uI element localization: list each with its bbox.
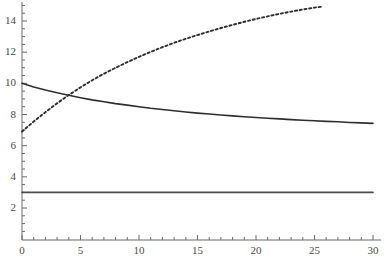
plot-canvas (0, 0, 384, 260)
x-axis-tick-label: 0 (2, 245, 42, 256)
y-axis-tick-label: 2 (0, 202, 16, 213)
y-axis-tick-label: 6 (0, 140, 16, 151)
x-axis-major-ticks (22, 235, 373, 240)
y-axis-tick-label: 10 (0, 77, 16, 88)
x-axis-tick-label: 20 (236, 245, 276, 256)
y-axis-tick-label: 4 (0, 171, 16, 182)
series-decaying-solid-curve (22, 83, 373, 123)
y-axis-major-ticks (22, 21, 27, 208)
y-axis-tick-label: 14 (0, 15, 16, 26)
x-axis-tick-label: 5 (61, 245, 101, 256)
chart-figure: 051015202530 2468101214 (0, 0, 384, 260)
y-axis-tick-label: 12 (0, 46, 16, 57)
data-series-group (22, 7, 373, 193)
x-axis-tick-label: 10 (119, 245, 159, 256)
x-axis-tick-label: 15 (178, 245, 218, 256)
x-axis-tick-label: 25 (295, 245, 335, 256)
x-axis-tick-label: 30 (353, 245, 384, 256)
y-axis-tick-label: 8 (0, 109, 16, 120)
series-rising-dashed-curve (22, 7, 323, 132)
